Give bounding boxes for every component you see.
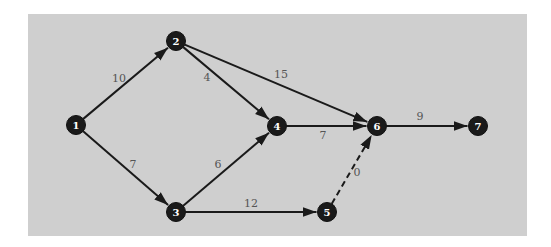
node-6: 6 [368, 117, 387, 136]
edge-weight-3-5: 12 [244, 197, 258, 210]
node-5: 5 [318, 203, 337, 222]
edge-weight-2-6: 15 [274, 68, 288, 81]
node-label: 3 [173, 207, 180, 218]
node-label: 4 [274, 121, 281, 132]
node-label: 1 [73, 120, 80, 131]
node-label: 7 [475, 121, 482, 132]
node-2: 2 [167, 32, 186, 51]
edge-1-3-arrow [83, 131, 168, 205]
node-3: 3 [167, 203, 186, 222]
node-label: 5 [324, 207, 331, 218]
edge-2-4-arrow [183, 47, 269, 119]
node-7: 7 [469, 117, 488, 136]
edge-3-4-arrow [183, 133, 269, 206]
edge-weight-2-4: 4 [204, 71, 211, 84]
node-1: 1 [67, 116, 86, 135]
node-4: 4 [268, 117, 287, 136]
edge-weight-6-7: 9 [417, 110, 424, 123]
node-label: 2 [173, 36, 180, 47]
edge-weight-1-3: 7 [130, 158, 137, 171]
edge-weight-4-6: 7 [320, 129, 327, 142]
edge-weight-5-6: 0 [354, 166, 361, 179]
node-label: 6 [374, 121, 381, 132]
edge-2-6-arrow [185, 45, 368, 122]
edge-weight-3-4: 6 [215, 158, 222, 171]
edge-5-6-dummy-arrow [332, 135, 372, 204]
network-diagram: 107415612709 1234567 [0, 0, 551, 247]
edge-labels-group: 107415612709 [112, 68, 424, 210]
edge-weight-1-2: 10 [112, 72, 126, 85]
